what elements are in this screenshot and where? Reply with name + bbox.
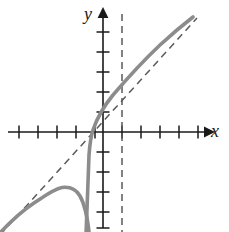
slant-asymptote-line bbox=[0, 18, 197, 232]
asymptotes-group bbox=[0, 14, 197, 232]
function-curve-group bbox=[0, 17, 193, 232]
curve-right-branch bbox=[86, 17, 193, 232]
y-axis-label: y bbox=[84, 5, 92, 23]
x-axis-label: x bbox=[211, 122, 219, 140]
axes-group bbox=[8, 7, 215, 228]
y-axis-arrowhead bbox=[98, 7, 109, 18]
curve-left-branch bbox=[0, 187, 89, 232]
plot-canvas bbox=[0, 0, 229, 232]
graph-figure: x y bbox=[0, 0, 229, 232]
